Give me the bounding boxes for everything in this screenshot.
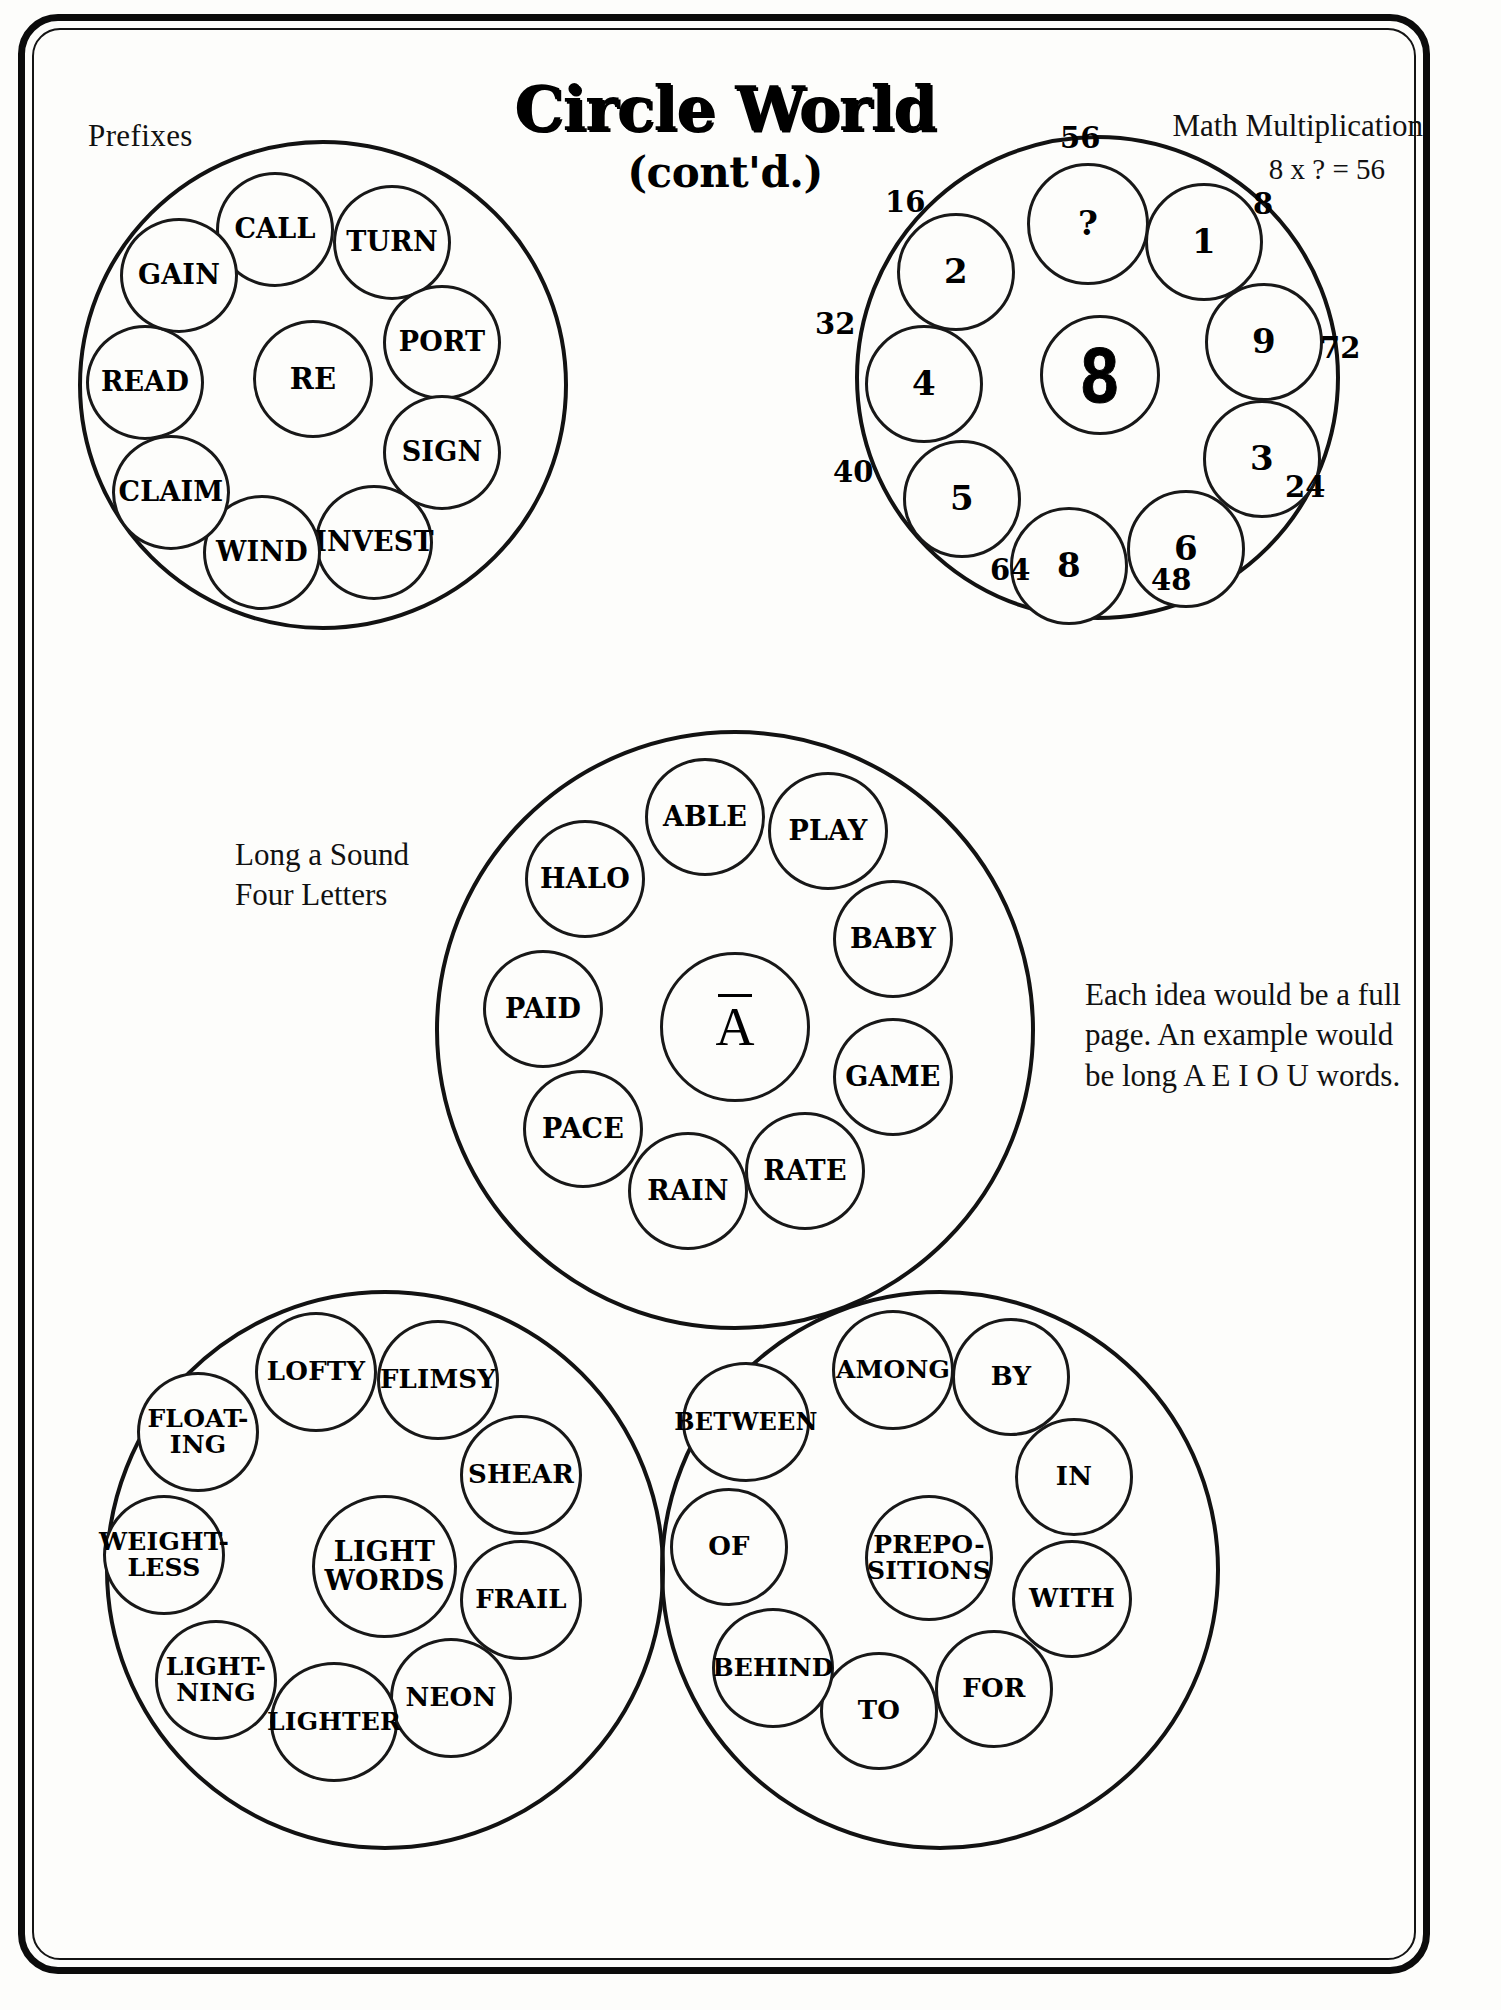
prepositions-node-for[interactable]: FOR	[935, 1630, 1053, 1748]
long-a-node-pace[interactable]: PACE	[523, 1070, 643, 1188]
worksheet-page: Prefixes Circle World (cont'd.) Math Mul…	[0, 0, 1501, 2010]
light-words-center-line1: LIGHT	[334, 1538, 435, 1566]
prepositions-node-between[interactable]: BETWEEN	[682, 1362, 810, 1482]
prepositions-node-with[interactable]: WITH	[1012, 1540, 1132, 1658]
prepositions-node-behind[interactable]: BEHIND	[712, 1608, 834, 1728]
math-outer-label-64: 64	[990, 553, 1030, 587]
long-a-node-play[interactable]: PLAY	[768, 772, 888, 890]
prepositions-node-in[interactable]: IN	[1015, 1418, 1133, 1536]
prefixes-center-node[interactable]: RE	[253, 320, 373, 438]
math-node-4[interactable]: 4	[865, 325, 983, 443]
prepositions-center-line2: SITIONS	[867, 1558, 991, 1584]
hand-drawn-eight-glyph: 8	[1081, 336, 1118, 414]
prepositions-node-of[interactable]: OF	[670, 1488, 788, 1606]
light-words-node-floating[interactable]: FLOAT-ING	[137, 1372, 259, 1492]
explanatory-note: Each idea would be a full page. An examp…	[1085, 975, 1415, 1096]
long-a-node-able[interactable]: ABLE	[645, 758, 765, 876]
light-words-node-lightning[interactable]: LIGHT-NING	[155, 1620, 277, 1740]
light-words-node-lofty[interactable]: LOFTY	[255, 1312, 377, 1432]
math-outer-label-8: 8	[1253, 187, 1273, 221]
math-outer-label-16: 16	[885, 185, 925, 219]
light-words-node-frail[interactable]: FRAIL	[460, 1540, 582, 1660]
cluster-prefixes: RE CALL TURN PORT SIGN INVEST WIND CLAIM…	[78, 140, 568, 630]
math-node-2[interactable]: 2	[897, 213, 1015, 331]
math-node-5[interactable]: 5	[903, 440, 1021, 558]
math-node-question[interactable]: ?	[1027, 163, 1149, 285]
long-a-node-baby[interactable]: BABY	[833, 880, 953, 998]
long-a-node-halo[interactable]: HALO	[525, 820, 645, 938]
light-words-center-line2: WORDS	[324, 1567, 444, 1595]
math-node-9[interactable]: 9	[1205, 283, 1323, 401]
light-words-center-node[interactable]: LIGHT WORDS	[312, 1495, 457, 1638]
prepositions-center-line1: PREPO-	[873, 1532, 985, 1558]
prefixes-node-port[interactable]: PORT	[383, 285, 501, 400]
math-node-1[interactable]: 1	[1145, 183, 1263, 301]
long-a-node-game[interactable]: GAME	[833, 1018, 953, 1136]
light-words-node-weightless[interactable]: WEIGHT-LESS	[103, 1495, 225, 1615]
math-outer-label-48: 48	[1151, 563, 1191, 597]
long-a-node-rate[interactable]: RATE	[745, 1112, 865, 1230]
cluster-light-words: LIGHT WORDS LOFTY FLIMSY SHEAR FRAIL NEO…	[105, 1290, 665, 1850]
long-a-caption-line1: Long a Sound	[235, 835, 409, 875]
prefixes-node-turn[interactable]: TURN	[333, 185, 451, 300]
cluster-prepositions: PREPO- SITIONS AMONG BY IN WITH FOR TO B…	[660, 1290, 1220, 1850]
cluster-long-a-sound: A ABLE PLAY BABY GAME RATE RAIN PACE PAI…	[435, 730, 1035, 1330]
long-a-node-rain[interactable]: RAIN	[628, 1132, 748, 1250]
long-a-node-paid[interactable]: PAID	[483, 950, 603, 1068]
prefixes-node-claim[interactable]: CLAIM	[112, 435, 230, 550]
long-a-center-node[interactable]: A	[660, 952, 810, 1102]
prepositions-node-among[interactable]: AMONG	[832, 1310, 954, 1430]
prefixes-node-invest[interactable]: INVEST	[315, 485, 433, 600]
light-words-node-shear[interactable]: SHEAR	[460, 1415, 582, 1535]
light-words-node-neon[interactable]: NEON	[390, 1638, 512, 1758]
math-outer-label-32: 32	[815, 307, 855, 341]
math-outer-label-72: 72	[1320, 331, 1360, 365]
math-outer-label-40: 40	[833, 455, 873, 489]
math-outer-label-56: 56	[1060, 121, 1100, 155]
prepositions-center-node[interactable]: PREPO- SITIONS	[865, 1495, 993, 1621]
long-a-caption: Long a Sound Four Letters	[235, 835, 409, 914]
math-center-node[interactable]: 8	[1040, 315, 1160, 435]
prepositions-node-to[interactable]: TO	[820, 1652, 938, 1770]
long-a-macron-glyph: A	[715, 1000, 754, 1054]
math-outer-label-24: 24	[1285, 470, 1325, 504]
prefixes-node-read[interactable]: READ	[86, 325, 204, 440]
cluster-math-multiplication: 8 ? 1 9 3 6 8 5 4 2 56 8 72 24 48 64 40 …	[855, 135, 1340, 620]
long-a-caption-line2: Four Letters	[235, 875, 409, 915]
prepositions-node-by[interactable]: BY	[952, 1318, 1070, 1436]
light-words-node-lighter[interactable]: LIGHTER	[270, 1662, 398, 1782]
macron-bar	[718, 994, 752, 997]
light-words-node-flimsy[interactable]: FLIMSY	[377, 1320, 499, 1440]
prefixes-node-gain[interactable]: GAIN	[120, 218, 238, 333]
